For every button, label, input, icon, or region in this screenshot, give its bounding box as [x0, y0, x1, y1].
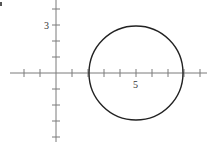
y-tick-label-3: 3	[44, 20, 49, 31]
corner-mark	[0, 2, 2, 6]
x-tick-label-5: 5	[133, 79, 138, 90]
coordinate-plane: 3 5	[0, 0, 211, 142]
